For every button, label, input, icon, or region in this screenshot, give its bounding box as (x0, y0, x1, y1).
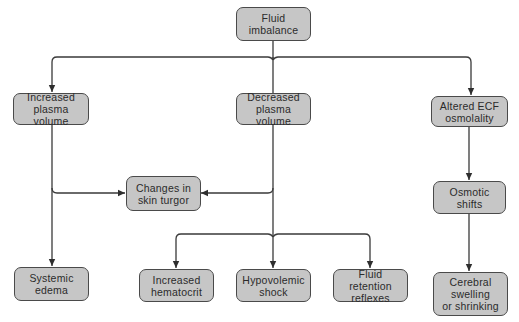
node-increased-hematocrit: Increased hematocrit (139, 269, 214, 302)
edge-decreased-plasma-to-hematocrit (176, 234, 273, 268)
edge-decreased-plasma-to-skin-turgor (201, 188, 273, 193)
node-altered-ecf-osmolality: Altered ECF osmolality (431, 96, 508, 127)
node-cerebral-swelling-or-shrinking: Cerebral swelling or shrinking (433, 272, 508, 316)
node-osmotic-shifts: Osmotic shifts (433, 181, 506, 214)
node-systemic-edema: Systemic edema (14, 267, 89, 301)
edge-increased-plasma-to-skin-turgor (52, 188, 125, 193)
edge-root-to-altered-ecf (273, 57, 471, 95)
node-changes-in-skin-turgor: Changes in skin turgor (126, 176, 201, 211)
node-fluid-imbalance: Fluid imbalance (236, 7, 311, 41)
fluid-imbalance-flowchart: Fluid imbalance Increased plasma volume … (0, 0, 519, 322)
node-hypovolemic-shock: Hypovolemic shock (236, 269, 311, 302)
edge-root-to-increased-plasma (52, 57, 273, 92)
edge-decreased-plasma-to-fluid-retention (273, 234, 370, 268)
node-fluid-retention-reflexes: Fluid retention reflexes (333, 269, 408, 302)
node-decreased-plasma-volume: Decreased plasma volume (236, 93, 311, 125)
node-increased-plasma-volume: Increased plasma volume (13, 93, 89, 125)
